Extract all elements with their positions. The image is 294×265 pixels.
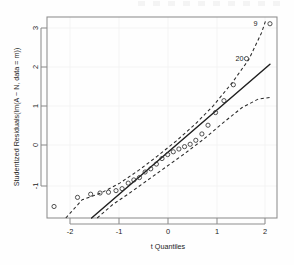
caption-ghost <box>0 256 294 265</box>
data-point <box>114 189 118 193</box>
y-axis-ticks <box>41 28 47 186</box>
data-point <box>177 147 181 151</box>
y-tick-label: 2 <box>31 65 40 69</box>
x-tick-label: -2 <box>67 227 74 236</box>
plot-frame <box>47 17 277 218</box>
data-point <box>200 132 204 136</box>
y-tick-label: 1 <box>31 104 40 108</box>
x-tick-labels: -2 -1 0 1 2 <box>67 227 267 236</box>
qq-plot-canvas: 3 2 1 0 -1 -2 -1 0 1 2 t Quantiles Stude… <box>0 0 294 265</box>
y-tick-label: -1 <box>31 183 40 190</box>
x-axis-title: t Quantiles <box>151 242 186 251</box>
data-points <box>52 22 272 209</box>
y-tick-label: 3 <box>31 26 40 30</box>
data-point <box>244 57 248 61</box>
x-tick-label: 1 <box>215 227 219 236</box>
x-tick-label: 2 <box>263 227 267 236</box>
point-label: 9 <box>254 19 258 28</box>
data-point <box>206 123 210 127</box>
y-tick-label: 0 <box>31 143 40 147</box>
data-point <box>106 190 110 194</box>
point-label: 20 <box>235 54 243 63</box>
x-tick-label: -1 <box>116 227 123 236</box>
data-point <box>268 22 272 26</box>
reference-line <box>92 64 270 218</box>
data-point <box>120 187 124 191</box>
confidence-band-lower <box>97 97 270 218</box>
data-point <box>222 99 226 103</box>
data-point <box>194 138 198 142</box>
data-point <box>171 150 175 154</box>
data-point <box>52 204 56 208</box>
data-point <box>89 192 93 196</box>
data-point <box>188 142 192 146</box>
x-tick-label: 0 <box>166 227 170 236</box>
x-axis-ticks <box>70 218 265 224</box>
data-point <box>126 181 130 185</box>
data-point <box>231 83 235 87</box>
plot-grid <box>47 17 277 218</box>
confidence-band-upper <box>66 19 266 218</box>
data-point <box>75 195 79 199</box>
y-tick-labels: 3 2 1 0 -1 <box>31 26 40 189</box>
y-axis-title: Studentized Residuals(lm(A ~ N, data = m… <box>12 48 21 187</box>
qq-plot-figure: 3 2 1 0 -1 -2 -1 0 1 2 t Quantiles Stude… <box>0 0 294 265</box>
